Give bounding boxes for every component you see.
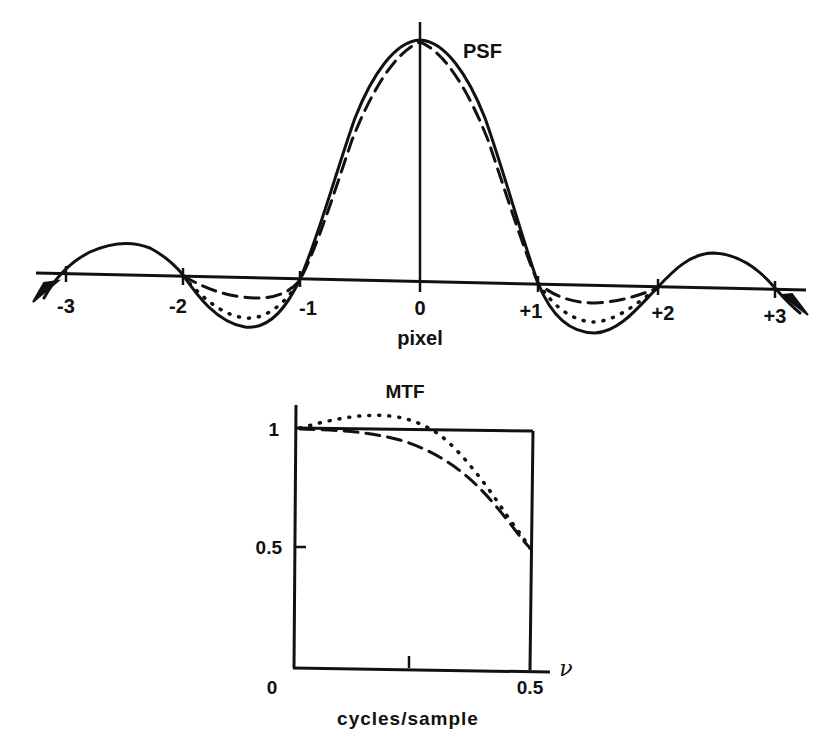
psf-tick-label: +3 [764, 305, 787, 327]
psf-tick-label: +1 [520, 300, 543, 322]
psf-tick-label: -3 [57, 295, 75, 317]
psf-solid-curve [44, 40, 800, 333]
psf-tick-label: -1 [299, 297, 317, 319]
psf-chart: -3 -2 -1 0 +1 +2 +3 pixel PSF [33, 22, 808, 349]
figure: -3 -2 -1 0 +1 +2 +3 pixel PSF MTF 1 0.5 … [0, 0, 833, 746]
mtf-chart: MTF 1 0.5 0 0.5 ν cycles/sample [256, 381, 573, 729]
mtf-x-axis [293, 668, 550, 672]
psf-tick-label: -2 [169, 295, 187, 317]
mtf-x-label: cycles/sample [337, 708, 479, 729]
psf-tick-label: 0 [414, 297, 425, 319]
psf-tick-label: +2 [652, 302, 675, 324]
mtf-y-tick-half: 0.5 [256, 537, 283, 558]
mtf-dotted-curve [300, 415, 530, 548]
mtf-right-border [530, 431, 533, 670]
mtf-y-axis [294, 405, 296, 668]
psf-x-label: pixel [397, 327, 443, 349]
mtf-x-tick-half: 0.5 [517, 677, 544, 698]
mtf-title: MTF [385, 381, 424, 402]
mtf-x-tick-0: 0 [267, 677, 278, 698]
mtf-dashed-curve [300, 429, 530, 548]
psf-title: PSF [463, 40, 502, 62]
mtf-y-tick-1: 1 [268, 419, 279, 440]
mtf-x-symbol: ν [559, 656, 572, 681]
